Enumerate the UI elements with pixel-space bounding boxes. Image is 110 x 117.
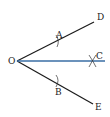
label-E: E bbox=[95, 102, 102, 112]
arc-mark-B bbox=[56, 75, 58, 87]
angle-bisector-diagram: O D A C B E bbox=[0, 0, 110, 117]
label-D: D bbox=[97, 12, 104, 22]
label-B: B bbox=[55, 87, 62, 97]
ray-OD bbox=[17, 22, 94, 61]
label-A: A bbox=[55, 30, 63, 40]
ray-OE bbox=[17, 61, 93, 104]
label-O: O bbox=[8, 56, 15, 66]
label-C: C bbox=[96, 51, 103, 61]
